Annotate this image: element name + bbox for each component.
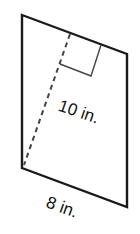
height-label: 10 in. — [56, 96, 102, 128]
parallelogram-diagram: 10 in. 8 in. — [0, 0, 140, 234]
base-label: 8 in. — [44, 193, 81, 222]
right-angle-marker — [60, 45, 101, 76]
